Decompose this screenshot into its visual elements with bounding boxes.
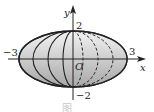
figure-caption: 图 — [62, 103, 72, 112]
tick-x-neg: −3 — [3, 47, 18, 58]
y-axis-label: y — [63, 7, 70, 18]
origin-label: O — [75, 61, 83, 72]
tick-y-pos: 2 — [76, 20, 82, 31]
x-axis-label: x — [140, 62, 146, 73]
tick-y-neg: −2 — [76, 90, 91, 101]
ellipsoid-diagram: y x O 2 −2 −3 3 图 — [0, 0, 154, 112]
tick-x-pos: 3 — [129, 46, 135, 57]
